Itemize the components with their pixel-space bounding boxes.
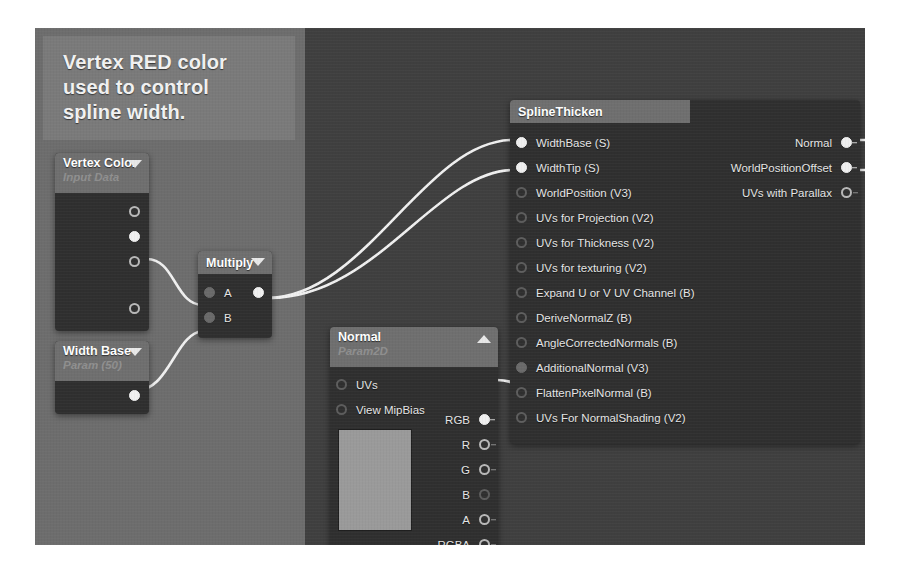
node-multiply[interactable]: Multiply A B (198, 251, 272, 338)
output-label: B (462, 489, 470, 501)
input-label: WorldPosition (V3) (536, 187, 632, 199)
input-row[interactable]: View MipBias (336, 397, 446, 422)
node-body: UVs View MipBias RGB R (330, 367, 498, 545)
node-body (55, 193, 149, 331)
output-pin[interactable] (479, 514, 490, 525)
input-pin[interactable] (516, 412, 527, 423)
node-width-base[interactable]: Width Base Param (50) (55, 341, 149, 414)
chevron-down-icon[interactable] (128, 348, 142, 356)
input-pin[interactable] (516, 287, 527, 298)
input-label: UVs for texturing (V2) (536, 262, 647, 274)
node-body (55, 381, 149, 414)
input-label: UVs For NormalShading (V2) (536, 412, 686, 424)
output-pin[interactable] (841, 187, 852, 198)
output-pin[interactable] (841, 162, 852, 173)
input-pin[interactable] (516, 262, 527, 273)
output-pin[interactable] (479, 439, 490, 450)
output-pin[interactable] (479, 464, 490, 475)
input-row[interactable]: B (198, 305, 272, 330)
output-pin[interactable] (129, 231, 140, 242)
comment-box[interactable]: Vertex RED color used to control spline … (43, 36, 295, 140)
output-row[interactable] (55, 274, 149, 296)
node-title: Multiply (206, 256, 253, 270)
output-row[interactable]: G (437, 457, 490, 482)
chevron-down-icon[interactable] (251, 258, 265, 266)
output-pin[interactable] (479, 539, 490, 545)
output-label: RGB (445, 414, 470, 426)
chevron-down-icon[interactable] (128, 160, 142, 168)
node-header[interactable]: Width Base Param (50) (55, 341, 149, 381)
output-pin[interactable] (129, 206, 140, 217)
output-row[interactable] (55, 296, 149, 321)
input-row[interactable]: Expand U or V UV Channel (B) (516, 280, 860, 305)
texture-preview[interactable] (338, 429, 412, 531)
input-row[interactable]: UVs for Thickness (V2) (516, 230, 860, 255)
input-pin[interactable] (516, 362, 527, 373)
input-row[interactable]: UVs (336, 372, 446, 397)
node-spline-thicken[interactable]: SplineThicken WidthBase (S) WidthTip (S) (510, 100, 860, 444)
output-pin[interactable] (479, 489, 490, 500)
input-pin[interactable] (516, 237, 527, 248)
output-pin[interactable] (129, 256, 140, 267)
output-pin[interactable] (479, 414, 490, 425)
input-pin[interactable] (516, 137, 527, 148)
node-header[interactable]: Normal Param2D (330, 327, 498, 367)
output-row[interactable] (55, 224, 149, 249)
input-row[interactable]: UVs For NormalShading (V2) (516, 405, 860, 430)
output-row[interactable]: R (437, 432, 490, 457)
node-body: WidthBase (S) WidthTip (S) WorldPosition… (510, 123, 860, 444)
input-pin[interactable] (516, 387, 527, 398)
node-header[interactable]: SplineThicken (510, 100, 690, 123)
output-row[interactable] (244, 280, 264, 305)
output-pin[interactable] (841, 137, 852, 148)
output-row[interactable]: UVs with Parallax (731, 180, 852, 205)
input-pin[interactable] (204, 312, 215, 323)
output-row[interactable]: RGB (437, 407, 490, 432)
input-pin[interactable] (516, 162, 527, 173)
input-label: WidthTip (S) (536, 162, 599, 174)
input-pin[interactable] (204, 287, 215, 298)
node-vertex-color[interactable]: Vertex Color Input Data (55, 153, 149, 331)
input-pin[interactable] (516, 337, 527, 348)
node-header[interactable]: Vertex Color Input Data (55, 153, 149, 193)
node-title: SplineThicken (518, 105, 603, 119)
input-row[interactable]: FlattenPixelNormal (B) (516, 380, 860, 405)
node-normal-param2d[interactable]: Normal Param2D UVs View MipBias (330, 327, 498, 545)
input-label: FlattenPixelNormal (B) (536, 387, 652, 399)
output-row[interactable]: B (437, 482, 490, 507)
input-row[interactable]: AdditionalNormal (V3) (516, 355, 860, 380)
input-label: DeriveNormalZ (B) (536, 312, 632, 324)
output-row[interactable]: Normal (731, 130, 852, 155)
output-row[interactable] (55, 249, 149, 274)
output-pin[interactable] (129, 390, 140, 401)
input-label: UVs (356, 379, 378, 391)
chevron-up-icon[interactable] (477, 335, 491, 343)
input-pin[interactable] (336, 379, 347, 390)
input-row[interactable]: DeriveNormalZ (B) (516, 305, 860, 330)
input-row[interactable]: UVs for Projection (V2) (516, 205, 860, 230)
output-row[interactable]: RGBA (437, 532, 490, 545)
input-row[interactable]: AngleCorrectedNormals (B) (516, 330, 860, 355)
input-label: B (224, 312, 232, 324)
output-pin[interactable] (253, 287, 264, 298)
input-row[interactable]: UVs for texturing (V2) (516, 255, 860, 280)
input-label: AdditionalNormal (V3) (536, 362, 649, 374)
output-label: RGBA (437, 539, 470, 546)
output-pin[interactable] (129, 303, 140, 314)
input-pin[interactable] (516, 212, 527, 223)
comment-line-1: Vertex RED color (63, 50, 288, 75)
input-pin[interactable] (516, 187, 527, 198)
output-row[interactable] (55, 383, 149, 408)
input-label: AngleCorrectedNormals (B) (536, 337, 677, 349)
input-pin[interactable] (516, 312, 527, 323)
input-label: A (224, 287, 232, 299)
output-row[interactable] (55, 199, 149, 224)
node-header[interactable]: Multiply (198, 251, 272, 274)
screenshot-root: Vertex RED color used to control spline … (0, 0, 902, 579)
material-graph-canvas[interactable]: Vertex RED color used to control spline … (35, 28, 865, 545)
input-label: UVs for Projection (V2) (536, 212, 654, 224)
input-pin[interactable] (336, 404, 347, 415)
output-label: UVs with Parallax (742, 187, 832, 199)
output-row[interactable]: WorldPositionOffset (731, 155, 852, 180)
output-row[interactable]: A (437, 507, 490, 532)
